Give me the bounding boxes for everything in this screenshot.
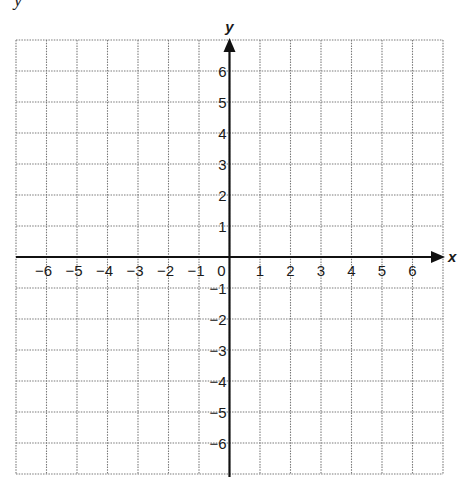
y-tick-label: 3: [218, 156, 226, 173]
x-tick-label: −6: [35, 262, 52, 279]
x-axis-label: x: [447, 248, 457, 265]
x-tick-label: −1: [187, 262, 204, 279]
coordinate-plane: −6−5−4−3−2−10123456 654321−1−2−3−4−5−6 x…: [0, 0, 461, 477]
y-tick-label: 6: [218, 63, 226, 80]
x-tick-label: 1: [256, 262, 264, 279]
x-tick-label: −5: [65, 262, 82, 279]
y-tick-label: 1: [218, 218, 226, 235]
x-tick-label: 4: [347, 262, 355, 279]
x-tick-label: 0: [217, 262, 225, 279]
x-tick-label: 3: [317, 262, 325, 279]
y-axis-label: y: [224, 18, 234, 35]
y-tick-label: −5: [209, 404, 226, 421]
x-tick-labels: −6−5−4−3−2−10123456: [35, 262, 417, 279]
x-tick-label: 2: [286, 262, 294, 279]
y-tick-label: −4: [209, 373, 226, 390]
x-tick-label: 5: [378, 262, 386, 279]
y-tick-label: −1: [209, 280, 226, 297]
x-tick-label: −3: [126, 262, 143, 279]
y-tick-label: 2: [218, 187, 226, 204]
x-tick-label: −4: [96, 262, 113, 279]
y-tick-label: −6: [209, 435, 226, 452]
x-tick-label: −2: [157, 262, 174, 279]
y-tick-label: −3: [209, 342, 226, 359]
y-tick-label: 5: [218, 94, 226, 111]
axes: [16, 38, 445, 477]
x-tick-label: 6: [408, 262, 416, 279]
x-axis-arrow-icon: [431, 251, 445, 263]
y-tick-label: −2: [209, 311, 226, 328]
y-tick-label: 4: [218, 125, 226, 142]
